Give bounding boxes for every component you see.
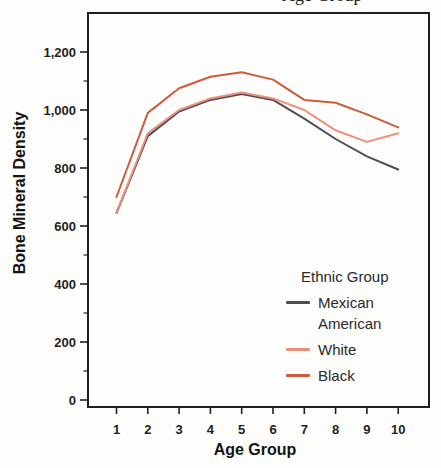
- x-tick-label: 9: [363, 422, 370, 437]
- y-tick-label: 800: [54, 161, 76, 176]
- x-tick-label: 4: [207, 422, 215, 437]
- x-tick-label: 2: [144, 422, 151, 437]
- legend-item-black: Black: [286, 365, 416, 386]
- series-line-black: [117, 72, 399, 197]
- x-tick-label: 8: [332, 422, 339, 437]
- legend-swatch-white: [286, 348, 310, 351]
- x-tick-label: 7: [301, 422, 308, 437]
- legend-item-mexican-american: Mexican American: [286, 292, 416, 334]
- y-tick-label: 600: [54, 219, 76, 234]
- legend-label-white: White: [318, 339, 406, 360]
- y-tick-label: 1,000: [43, 103, 76, 118]
- x-tick-label: 10: [391, 422, 405, 437]
- x-tick-label: 6: [269, 422, 276, 437]
- x-tick-label: 1: [113, 422, 120, 437]
- bone-density-chart: 02004006008001,0001,20012345678910: [0, 0, 441, 468]
- x-axis-title: Age Group: [155, 441, 355, 459]
- legend-title: Ethnic Group: [301, 268, 416, 285]
- legend-swatch-black: [286, 374, 310, 377]
- legend-item-white: White: [286, 339, 416, 360]
- y-tick-label: 200: [54, 335, 76, 350]
- legend: Ethnic Group Mexican AmericanWhiteBlack: [286, 268, 416, 386]
- y-axis-title: Bone Mineral Density: [11, 83, 31, 303]
- series-line-mexican-american: [117, 94, 399, 213]
- y-tick-label: 0: [69, 393, 76, 408]
- chart-page: Age Group 02004006008001,0001,2001234567…: [0, 0, 441, 468]
- x-tick-label: 5: [238, 422, 245, 437]
- x-tick-label: 3: [175, 422, 182, 437]
- legend-swatch-mexican-american: [286, 301, 310, 304]
- legend-label-black: Black: [318, 365, 406, 386]
- y-tick-label: 1,200: [43, 45, 76, 60]
- y-tick-label: 400: [54, 277, 76, 292]
- legend-label-mexican-american: Mexican American: [318, 292, 406, 334]
